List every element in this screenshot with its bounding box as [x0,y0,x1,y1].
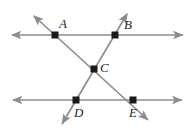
label-point-e: E [129,106,137,119]
points-group [52,32,137,104]
point-e [130,97,137,104]
point-d [73,97,80,104]
point-b [112,32,119,39]
geometry-canvas [0,0,194,130]
label-point-b: B [124,18,132,31]
label-point-a: A [59,17,67,30]
point-a [52,32,59,39]
label-point-c: C [100,61,109,74]
geometry-diagram: A B C D E [0,0,194,130]
label-point-d: D [74,106,83,119]
point-c [91,66,98,73]
